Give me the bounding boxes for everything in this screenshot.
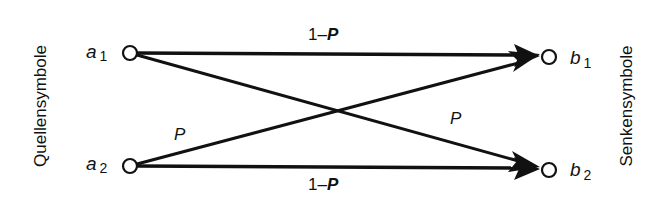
prob-label-a2-b2: 1–P (308, 175, 339, 194)
source-symbols-label: Quellensymbole (31, 45, 50, 167)
label-b1: b1 (570, 47, 592, 71)
label-a2: a2 (86, 153, 108, 176)
node-a1 (123, 46, 137, 60)
sink-symbols-label: Senkensymbole (617, 46, 636, 167)
edge-a2-b2 (137, 157, 540, 180)
node-a2 (123, 159, 137, 173)
label-b2: b2 (570, 159, 592, 183)
edge-a1-b1 (137, 44, 540, 67)
prob-label-a1-b1: 1–P (308, 25, 339, 44)
node-b1 (542, 50, 556, 64)
prob-label-a2-b1: P (174, 125, 186, 144)
prob-label-a1-b2: P (450, 109, 462, 128)
channel-diagram: Quellensymbole Senkensymbole a1 a2 b1 b2… (0, 0, 666, 198)
node-b2 (542, 163, 556, 177)
edge-a2-b1 (137, 51, 540, 164)
label-a1: a1 (86, 41, 108, 64)
